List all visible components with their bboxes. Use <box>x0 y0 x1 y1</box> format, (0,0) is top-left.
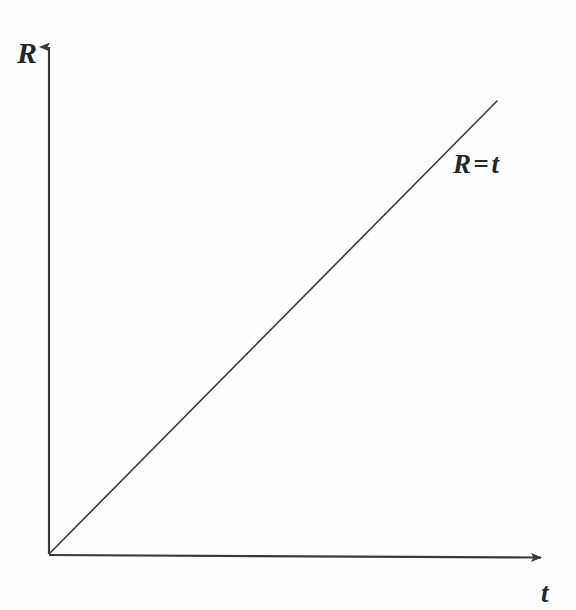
plot-canvas <box>0 0 576 610</box>
curve-line-r-equals-t <box>50 101 497 553</box>
y-axis-label: R <box>17 38 37 68</box>
curve-equation-lhs: R <box>453 149 472 179</box>
curve-equation-operator: = <box>472 149 492 179</box>
curve-equation-rhs: t <box>491 149 499 179</box>
x-axis-label: t <box>541 580 549 607</box>
curve-equation-label: R=t <box>453 151 499 178</box>
x-axis-line <box>49 555 541 558</box>
figure-root: R t R=t <box>0 0 576 610</box>
